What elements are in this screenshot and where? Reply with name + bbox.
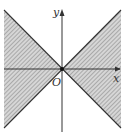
- x-axis-label: x: [113, 72, 120, 85]
- diagram-canvas: y x O: [0, 0, 133, 135]
- origin-point: [60, 67, 64, 71]
- origin-label: O: [52, 76, 61, 89]
- y-axis-label: y: [52, 6, 60, 19]
- y-axis-arrow-icon: [60, 9, 65, 16]
